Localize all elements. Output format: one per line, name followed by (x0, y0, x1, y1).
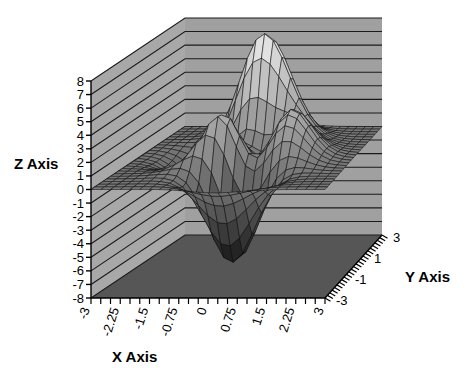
y-tick (361, 259, 367, 262)
surface-chart: 876543210-1-2-3-4-5-6-7-8-3-2.25-1.5-0.7… (0, 0, 475, 384)
y-axis-title: Y Axis (405, 268, 450, 285)
x-tick-label: 3 (310, 305, 327, 317)
surface-facet (320, 182, 332, 185)
x-tick-label: 0.75 (217, 305, 239, 334)
z-tick-label: -8 (72, 291, 84, 306)
y-tick (358, 261, 364, 264)
surface-facet (323, 179, 335, 182)
y-tick (365, 253, 371, 256)
x-tick-label: -1.5 (130, 305, 151, 331)
y-tick (344, 277, 350, 280)
y-tick (380, 238, 386, 241)
surface-facet (315, 187, 327, 190)
y-tick (368, 251, 374, 254)
y-tick (377, 240, 383, 243)
y-tick (346, 274, 352, 277)
z-axis-title: Z Axis (14, 155, 58, 172)
surface-facet (318, 184, 330, 187)
y-tick (349, 272, 355, 275)
surface-facet (325, 176, 337, 179)
y-tick-label: -3 (336, 293, 348, 308)
y-tick (327, 295, 333, 298)
x-tick-label: -3 (75, 305, 93, 321)
y-tick (382, 235, 388, 238)
x-tick-label: 2.25 (276, 305, 298, 334)
y-tick (354, 267, 360, 270)
y-tick (363, 256, 369, 259)
y-tick (325, 298, 331, 301)
y-tick-label: 1 (374, 251, 381, 266)
surface-facet (327, 174, 339, 177)
x-tick-label: 1.5 (249, 305, 269, 327)
y-tick (337, 285, 343, 288)
x-tick-label: -0.75 (157, 305, 180, 338)
y-tick (339, 282, 345, 285)
surface-facet (330, 171, 342, 174)
y-tick-label: 3 (393, 230, 400, 245)
plot-canvas: 876543210-1-2-3-4-5-6-7-8-3-2.25-1.5-0.7… (0, 0, 475, 384)
y-tick (342, 280, 348, 283)
y-tick (335, 288, 341, 291)
x-tick-label: -2.25 (99, 305, 122, 338)
x-axis-title: X Axis (112, 348, 157, 365)
y-tick (330, 293, 336, 296)
surface-facet (332, 168, 344, 171)
y-tick (373, 246, 379, 249)
y-tick-label: -1 (355, 272, 367, 287)
y-tick (375, 243, 381, 246)
x-tick-label: 0 (193, 305, 210, 317)
y-tick (356, 264, 362, 267)
